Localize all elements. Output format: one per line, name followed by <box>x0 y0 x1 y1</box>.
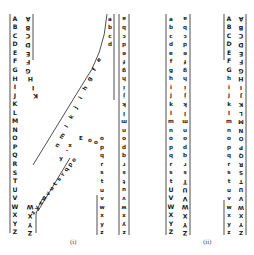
letter: F <box>26 59 30 66</box>
letter: V <box>13 194 18 201</box>
letter: z <box>122 230 125 236</box>
letter: J <box>240 92 243 99</box>
figure-canvas: ABCDEFGHIJKLMNOPQRSTUVWXYZABCDEFGHIKWXYZ… <box>0 0 254 255</box>
letter: l <box>123 111 125 117</box>
letter: i <box>170 84 172 90</box>
letter: K <box>238 102 243 108</box>
letter: V <box>169 194 174 201</box>
letter: i <box>228 84 230 90</box>
letter: G <box>12 66 17 73</box>
letter: N <box>12 126 17 133</box>
letter: e <box>95 56 102 63</box>
letter: V <box>238 196 243 202</box>
letter: g <box>122 67 126 74</box>
letter: o <box>70 156 77 163</box>
letter: n <box>54 142 61 149</box>
letter: e <box>169 50 173 56</box>
letter: x <box>122 213 126 219</box>
letter: M <box>12 117 18 124</box>
letter: k <box>67 113 74 120</box>
letter: T <box>13 177 18 184</box>
letter: A <box>25 16 30 23</box>
letter: a <box>183 16 187 22</box>
letter: R <box>13 160 18 167</box>
letter: v <box>227 195 231 201</box>
letter: w <box>99 204 104 210</box>
letter: k <box>169 101 173 107</box>
letter: Z <box>27 230 32 237</box>
letter: r <box>122 162 125 168</box>
letter: Z <box>239 230 243 236</box>
letter: H <box>28 76 33 83</box>
letter: s <box>100 169 104 175</box>
letter: j <box>123 92 126 99</box>
letter: f <box>170 58 173 64</box>
letter: B <box>238 25 243 32</box>
letter: K <box>13 100 18 107</box>
letter: o <box>183 136 187 142</box>
letter: i <box>77 95 83 100</box>
letter: D <box>25 42 30 49</box>
letter: g <box>183 67 187 74</box>
letter: U <box>238 187 243 193</box>
letter: T <box>239 179 243 185</box>
letter: m <box>121 119 127 125</box>
letter: y <box>100 221 104 228</box>
letter: r <box>183 162 186 168</box>
letter: b <box>108 24 112 30</box>
letter: I <box>240 85 242 91</box>
letter: h <box>227 75 231 81</box>
letter: b <box>122 25 126 31</box>
letter: l <box>170 110 172 116</box>
alphabet-strip-figure: ABCDEFGHIJKLMNOPQRSTUVWXYZABCDEFGHIKWXYZ… <box>0 0 254 255</box>
letter: t <box>170 178 173 184</box>
letter: y <box>122 221 126 228</box>
letter: F <box>13 57 17 64</box>
letter: p <box>183 144 187 151</box>
letter: s <box>183 170 187 176</box>
letter: x <box>68 142 72 148</box>
letter: h <box>183 76 187 82</box>
letter: a <box>169 16 173 22</box>
letter: V <box>182 196 187 203</box>
letter: Z <box>169 228 174 235</box>
letter: W <box>238 205 244 211</box>
letter: j <box>227 92 230 99</box>
letter: r <box>228 161 231 167</box>
letter: J <box>13 92 16 100</box>
letter: z <box>227 229 230 235</box>
letter: t <box>52 181 59 187</box>
letter: d <box>183 42 187 48</box>
letter: L <box>13 109 17 116</box>
letter: d <box>108 41 112 47</box>
letter: P <box>239 145 243 151</box>
letter: O <box>238 136 243 142</box>
letter: U <box>12 186 17 193</box>
letter: t <box>101 178 104 184</box>
letter: k <box>122 102 126 108</box>
letter: H <box>238 76 243 83</box>
letter: Z <box>13 228 18 235</box>
letter: p <box>169 144 173 151</box>
letter: A <box>13 15 18 22</box>
letter: c <box>183 34 186 40</box>
letter: q <box>227 152 231 159</box>
letter: k <box>227 101 231 107</box>
letter: H <box>12 75 17 82</box>
letter: I <box>32 85 34 92</box>
letter: B <box>13 23 18 30</box>
letter: y <box>227 221 231 228</box>
letter: t <box>122 179 125 185</box>
letter: c <box>108 33 111 39</box>
letter: o <box>88 137 92 143</box>
letter: Y <box>27 221 33 228</box>
letter: C <box>227 32 232 39</box>
letter: n <box>122 128 126 134</box>
letter: l <box>184 111 186 117</box>
letter: W <box>12 203 19 210</box>
letter: m <box>58 132 66 140</box>
letter: G <box>226 66 231 73</box>
letter: s <box>169 169 173 175</box>
letter: n <box>227 127 231 133</box>
letter: S <box>239 170 243 176</box>
